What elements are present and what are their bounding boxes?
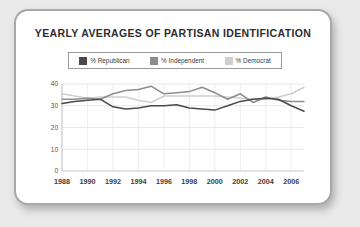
line-chart-svg: 010203040 198819901992199419961998200020… [40, 79, 312, 191]
legend-swatch-democrat [225, 57, 233, 65]
x-axis-tick-label: 2000 [207, 177, 223, 186]
chart-card: YEARLY AVERAGES OF PARTISAN IDENTIFICATI… [14, 9, 332, 205]
page-root: YEARLY AVERAGES OF PARTISAN IDENTIFICATI… [0, 0, 360, 227]
y-axis-tick-label: 40 [51, 80, 59, 87]
x-axis-tick-label: 2002 [232, 177, 248, 186]
y-axis-tick-label: 0 [54, 167, 58, 174]
y-axis-tick-label: 30 [51, 102, 59, 109]
legend-item-democrat[interactable]: % Democrat [225, 57, 271, 65]
legend-swatch-independent [150, 57, 158, 65]
chart-plot-area: 010203040 198819901992199419961998200020… [40, 79, 312, 191]
y-axis-tick-label: 20 [51, 124, 59, 131]
chart-x-axis: 1988199019921994199619982000200220042006 [54, 177, 299, 186]
x-axis-tick-label: 2006 [283, 177, 299, 186]
chart-series-lines [62, 86, 304, 111]
x-axis-tick-label: 1996 [156, 177, 172, 186]
x-axis-tick-label: 1990 [79, 177, 95, 186]
chart-y-axis: 010203040 [51, 80, 59, 174]
x-axis-tick-label: 1998 [181, 177, 197, 186]
legend-item-republican[interactable]: % Republican [79, 57, 129, 65]
legend-label-democrat: % Democrat [236, 57, 271, 64]
x-axis-tick-label: 2004 [258, 177, 274, 186]
x-axis-tick-label: 1988 [54, 177, 70, 186]
legend-label-independent: % Independent [161, 57, 204, 64]
series-line-republican [62, 98, 304, 111]
y-axis-tick-label: 10 [51, 146, 59, 153]
x-axis-tick-label: 1992 [105, 177, 121, 186]
legend-swatch-republican [79, 57, 87, 65]
page-title: YEARLY AVERAGES OF PARTISAN IDENTIFICATI… [16, 27, 330, 39]
x-axis-tick-label: 1994 [130, 177, 146, 186]
chart-legend: % Republican % Independent % Democrat [68, 52, 282, 69]
legend-item-independent[interactable]: % Independent [150, 57, 204, 65]
series-line-democrat [62, 87, 304, 102]
legend-label-republican: % Republican [90, 57, 129, 64]
